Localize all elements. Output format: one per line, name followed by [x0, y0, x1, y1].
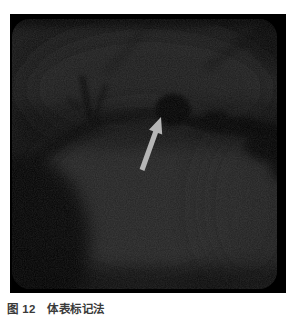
figure-title: 体表标记法 [47, 303, 105, 315]
xray-graphic [10, 14, 286, 293]
figure-number: 图 12 [7, 303, 36, 315]
figure-caption: 图 12体表标记法 [7, 300, 287, 316]
fluoroscopy-image [10, 14, 286, 293]
